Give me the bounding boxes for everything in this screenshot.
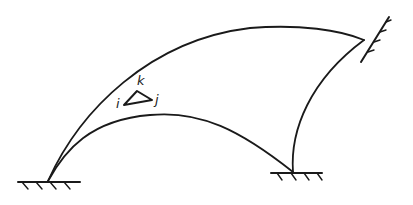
shell-inner-edge — [48, 114, 293, 181]
shell-diagram: k i j — [0, 0, 413, 205]
top-right-fixed-support — [361, 17, 391, 62]
shell-outer-edge — [48, 27, 364, 181]
middle-fixed-support — [271, 173, 322, 180]
node-k-label: k — [137, 73, 145, 88]
node-j-label: j — [153, 92, 159, 107]
shell-right-edge — [293, 40, 364, 172]
left-fixed-support — [18, 182, 80, 189]
triangular-element: k i j — [116, 73, 159, 111]
node-i-label: i — [116, 96, 120, 111]
